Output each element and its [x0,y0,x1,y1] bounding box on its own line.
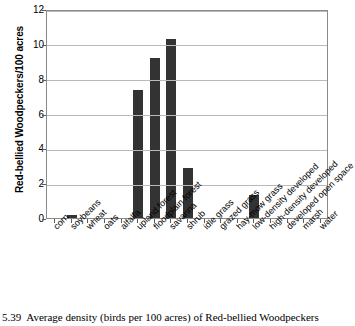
gridline [47,150,327,151]
gridline [47,115,327,116]
y-tick-mark [42,149,46,150]
gridline [47,185,327,186]
y-tick-mark [42,80,46,81]
bar[interactable] [150,58,160,218]
y-tick-label: 0 [18,214,44,224]
y-tick-label: 12 [18,5,44,15]
caption-number: 5.39 [2,311,21,323]
gridline [47,45,327,46]
bar[interactable] [133,90,143,218]
y-tick-label: 6 [18,110,44,120]
y-tick-label: 10 [18,40,44,50]
gridline [47,80,327,81]
y-tick-mark [42,219,46,220]
gridline [47,11,327,12]
y-tick-label: 4 [18,144,44,154]
figure-caption: 5.39Average density (birds per 100 acres… [2,311,337,324]
y-tick-label: 8 [18,75,44,85]
y-tick-mark [42,184,46,185]
y-tick-mark [42,10,46,11]
y-tick-label: 2 [18,179,44,189]
y-tick-mark [42,45,46,46]
y-tick-mark [42,115,46,116]
caption-text: Average density (birds per 100 acres) of… [26,311,319,323]
